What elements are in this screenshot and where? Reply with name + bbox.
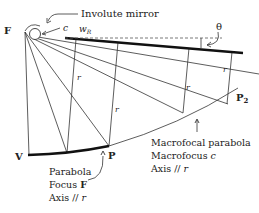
label-wR: wR <box>79 24 92 35</box>
svg-text:Parabola: Parabola <box>49 166 92 177</box>
parabola-annotation: Parabola Focus F Axis // r <box>48 166 92 203</box>
label-theta: θ <box>216 21 222 32</box>
svg-text:Macrofocus c: Macrofocus c <box>151 150 217 161</box>
theta-arrow-icon <box>207 32 219 45</box>
svg-text:Focus F: Focus F <box>49 179 87 190</box>
label-V: V <box>14 151 23 162</box>
label-c: c <box>63 23 68 33</box>
parabola-segment <box>28 146 109 155</box>
label-F: F <box>4 25 11 36</box>
label-P: P <box>108 150 116 161</box>
label-r-1: r <box>77 73 82 82</box>
mirror-wR <box>65 38 243 53</box>
parabola-arrow-icon <box>101 151 105 155</box>
involute-leader-icon <box>48 14 78 21</box>
label-r-2: r <box>115 105 120 114</box>
label-P2: P2 <box>236 92 249 105</box>
svg-text:Axis // r: Axis // r <box>48 192 88 203</box>
macrofocal-parabola-diagram: F Involute mirror c wR θ r r r r P2 V P … <box>0 0 259 213</box>
label-involute-mirror: Involute mirror <box>81 8 159 19</box>
svg-text:Axis // r: Axis // r <box>150 163 190 174</box>
involute-circle-c <box>30 29 41 40</box>
svg-text:Macrofocal parabola: Macrofocal parabola <box>151 137 251 148</box>
label-r-4: r <box>223 65 228 74</box>
macrofocal-annotation: Macrofocal parabola Macrofocus c Axis //… <box>150 137 251 174</box>
